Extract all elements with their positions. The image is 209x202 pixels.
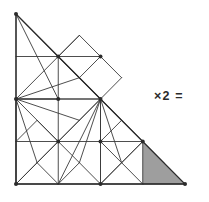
segment-low-p1	[101, 120, 122, 141]
segment-low-n3	[16, 120, 37, 141]
vertex-node-8	[99, 182, 103, 186]
segment-mid-k4	[16, 99, 79, 120]
vertex-node-10	[99, 55, 103, 59]
segment-low-n2	[37, 120, 58, 141]
segment-low-n7	[79, 163, 100, 184]
segment-ctr-m8	[79, 99, 100, 163]
segment-hyp-q1	[58, 35, 79, 56]
segment-mid-k2	[16, 78, 79, 99]
segment-low-n9	[58, 163, 79, 184]
vertex-node-0	[14, 12, 18, 16]
vertex-node-6	[141, 140, 145, 144]
segment-hyp-q2	[101, 57, 122, 78]
multiplier-annotation: ×2 =	[154, 88, 184, 104]
vertex-node-11	[56, 97, 60, 101]
segment-low-n10	[37, 163, 58, 184]
vertex-node-9	[183, 182, 187, 186]
segment-cell-r1c1-j	[79, 35, 100, 56]
vertex-node-3	[99, 97, 103, 101]
figure-root: ×2 =	[0, 0, 209, 202]
segment-low-p6	[122, 163, 143, 184]
segment-cell-r1c1-g	[79, 57, 100, 78]
vertex-node-5	[99, 140, 103, 144]
segment-low-n6	[58, 142, 79, 163]
segment-low-n1	[58, 120, 79, 141]
segment-hyp-q3	[101, 78, 122, 99]
vertex-node-4	[56, 140, 60, 144]
segment-mid-k1	[16, 57, 58, 100]
vertex-node-1	[56, 55, 60, 59]
vertex-node-2	[14, 97, 18, 101]
vertex-node-7	[14, 182, 18, 186]
